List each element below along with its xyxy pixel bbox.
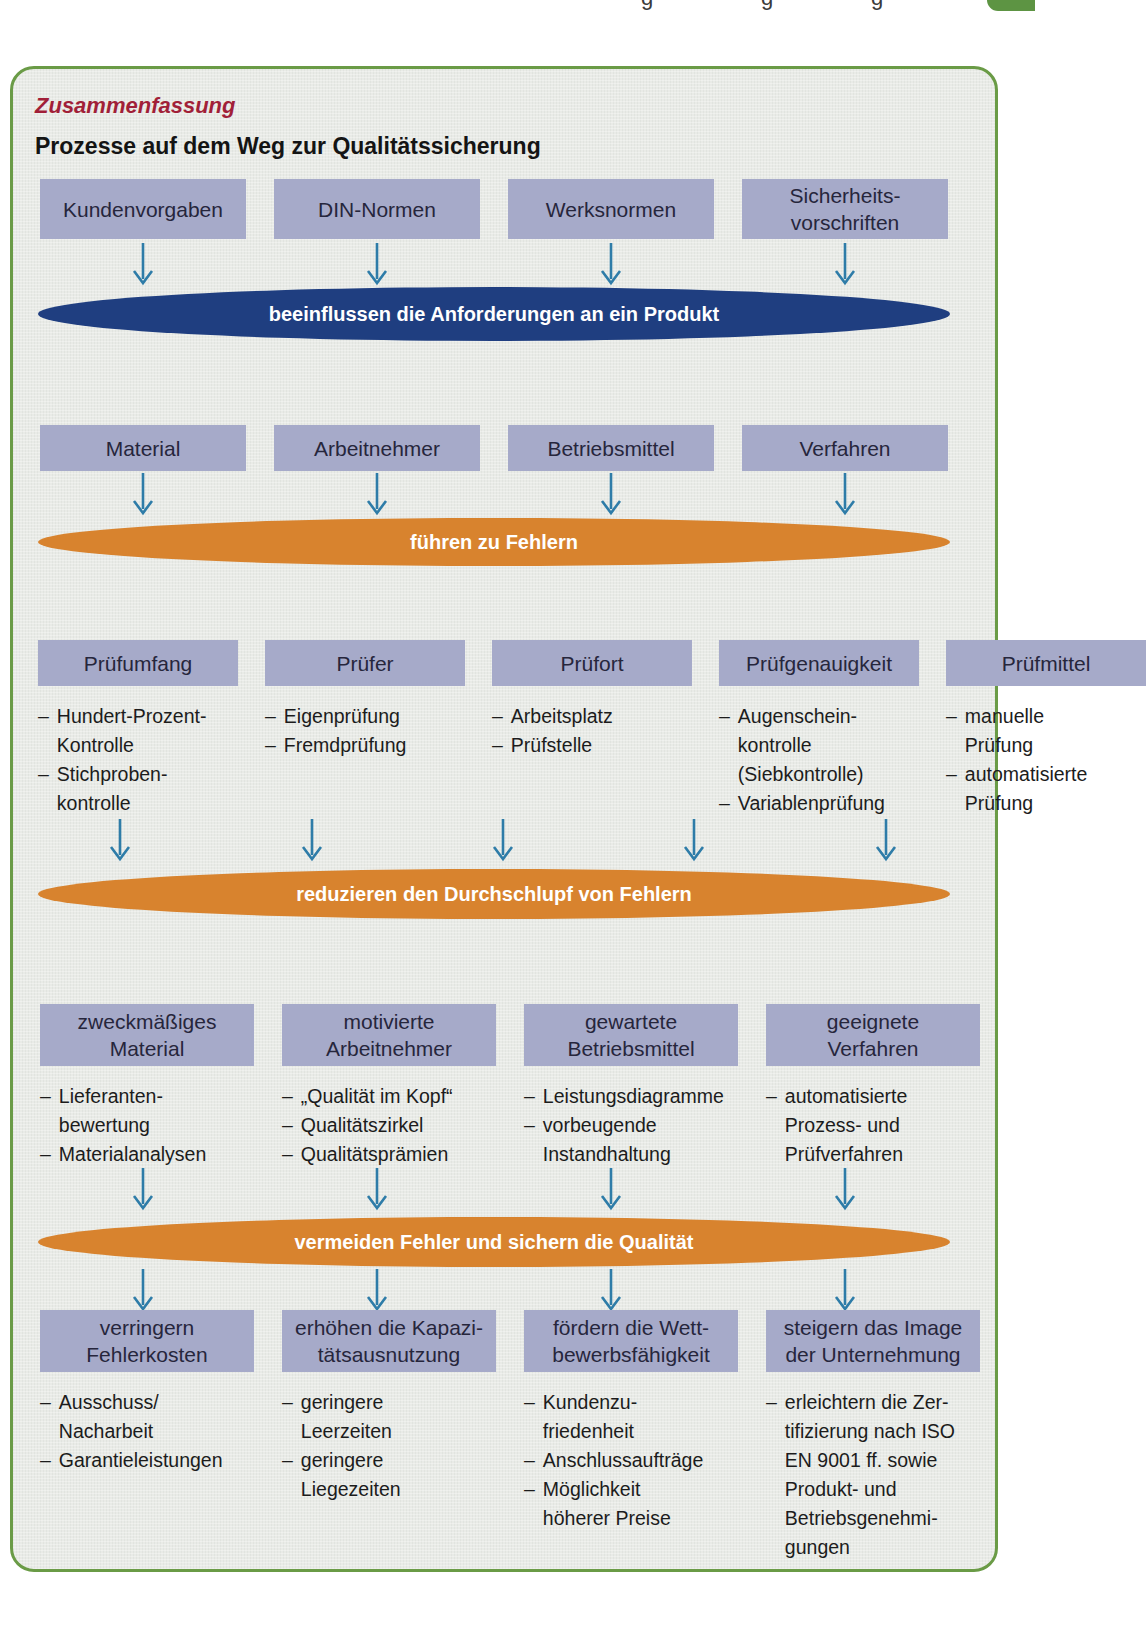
bullet-text: automatisierte Prüfung (965, 760, 1087, 818)
bullet-list: –Hundert-Prozent- Kontrolle –Stichproben… (38, 702, 238, 818)
reduce-ellipse: reduzieren den Durchschlupf von Fehlern (38, 869, 950, 919)
bullet-dash: – (524, 1388, 535, 1446)
arrow-row (40, 1165, 948, 1215)
bullet-dash: – (38, 702, 49, 760)
bullet-dash: – (766, 1388, 777, 1562)
prevent-ellipse: vermeiden Fehler und sichern die Qualitä… (38, 1217, 950, 1267)
inspection-column: Prüfer –Eigenprüfung –Fremdprüfung (265, 640, 465, 818)
bullet-item: –manuelle Prüfung (946, 702, 1146, 760)
down-arrow-icon (682, 817, 706, 865)
inspection-column: Prüfort –Arbeitsplatz –Prüfstelle (492, 640, 692, 818)
inspection-column: Prüfmittel –manuelle Prüfung –automatisi… (946, 640, 1146, 818)
down-arrow-icon (874, 817, 898, 865)
bullet-dash: – (766, 1082, 777, 1169)
bullet-item: –„Qualität im Kopf“ (282, 1082, 496, 1111)
bullet-dash: – (524, 1111, 535, 1169)
bullet-dash: – (492, 702, 503, 731)
bullet-item: –Möglichkeit höherer Preise (524, 1475, 738, 1533)
summary-label: Zusammenfassung (35, 93, 236, 119)
down-arrow-icon (491, 817, 515, 865)
down-arrow-icon (833, 1165, 857, 1215)
bullet-list: –„Qualität im Kopf“ –Qualitätszirkel –Qu… (282, 1082, 496, 1169)
down-arrow-icon (131, 243, 155, 287)
bullet-text: Garantieleistungen (59, 1446, 223, 1475)
down-arrow-icon (365, 473, 389, 517)
down-arrow-icon (599, 243, 623, 287)
bullet-dash: – (282, 1082, 293, 1111)
bullet-text: Augenschein- kontrolle (Siebkontrolle) (738, 702, 864, 789)
bullet-text: Kundenzu- friedenheit (543, 1388, 637, 1446)
down-arrow-icon (833, 473, 857, 517)
bullet-text: Hundert-Prozent- Kontrolle (57, 702, 207, 760)
fault-source-box: Verfahren (742, 425, 948, 471)
bullet-text: Leistungsdiagramme (543, 1082, 724, 1111)
prevention-header: motivierte Arbeitnehmer (282, 1004, 496, 1066)
prevention-row: zweckmäßiges Material –Lieferanten- bewe… (40, 1004, 948, 1169)
bullet-item: –Arbeitsplatz (492, 702, 692, 731)
down-arrow-icon (599, 1165, 623, 1215)
down-arrow-icon (131, 1269, 155, 1313)
down-arrow-icon (599, 1269, 623, 1313)
bullet-text: Ausschuss/ Nacharbeit (59, 1388, 159, 1446)
bullet-text: Lieferanten- bewertung (59, 1082, 163, 1140)
bullet-text: Eigenprüfung (284, 702, 400, 731)
bullet-item: –vorbeugende Instandhaltung (524, 1111, 738, 1169)
bullet-item: –Hundert-Prozent- Kontrolle (38, 702, 238, 760)
bullet-list: –geringere Leerzeiten –geringere Liegeze… (282, 1388, 496, 1504)
inspection-header: Prüfumfang (38, 640, 238, 686)
bullet-dash: – (265, 702, 276, 731)
down-arrow-icon (599, 473, 623, 517)
bullet-dash: – (282, 1446, 293, 1504)
bullet-dash: – (38, 760, 49, 818)
prevention-column: motivierte Arbeitnehmer –„Qualität im Ko… (282, 1004, 496, 1169)
bullet-dash: – (946, 702, 957, 760)
bullet-dash: – (40, 1082, 51, 1140)
down-arrow-icon (833, 243, 857, 287)
bullet-item: –automatisierte Prüfung (946, 760, 1146, 818)
influences-row: Kundenvorgaben DIN-Normen Werksnormen Si… (40, 179, 948, 239)
bullet-text: vorbeugende Instandhaltung (543, 1111, 671, 1169)
benefit-header: fördern die Wett- bewerbsfähigkeit (524, 1310, 738, 1372)
bullet-text: erleichtern die Zer- tifizierung nach IS… (785, 1388, 955, 1562)
bullet-text: Prüfstelle (511, 731, 592, 760)
bullet-dash: – (40, 1388, 51, 1446)
down-arrow-icon (833, 1269, 857, 1313)
bullet-item: –Prüfstelle (492, 731, 692, 760)
fault-source-box: Arbeitnehmer (274, 425, 480, 471)
benefit-column: steigern das Image der Unternehmung –erl… (766, 1310, 980, 1562)
bullet-dash: – (524, 1082, 535, 1111)
summary-panel: Zusammenfassung Prozesse auf dem Weg zur… (10, 66, 998, 1572)
cropped-header-strip: g g g (0, 0, 1035, 11)
bullet-list: –Ausschuss/ Nacharbeit –Garantieleistung… (40, 1388, 254, 1475)
bullet-item: –geringere Liegezeiten (282, 1446, 496, 1504)
bullet-text: „Qualität im Kopf“ (301, 1082, 453, 1111)
bullet-item: –Leistungsdiagramme (524, 1082, 738, 1111)
benefit-header: erhöhen die Kapazi- tätsausnutzung (282, 1310, 496, 1372)
bullet-list: –Kundenzu- friedenheit –Anschlussaufträg… (524, 1388, 738, 1533)
inspection-header: Prüfer (265, 640, 465, 686)
diagram-title: Prozesse auf dem Weg zur Qualitätssicher… (35, 133, 541, 160)
arrow-row (40, 473, 948, 517)
prevention-header: geeignete Verfahren (766, 1004, 980, 1066)
influences-ellipse: beeinflussen die Anforderungen an ein Pr… (38, 287, 950, 341)
bullet-text: automatisierte Prozess- und Prüfverfahre… (785, 1082, 907, 1169)
down-arrow-icon (108, 817, 132, 865)
green-tab-fragment (987, 0, 1035, 11)
bullet-item: –Lieferanten- bewertung (40, 1082, 254, 1140)
down-arrow-icon (365, 1269, 389, 1313)
bullet-item: –Anschlussaufträge (524, 1446, 738, 1475)
bullet-list: –Augenschein- kontrolle (Siebkontrolle) … (719, 702, 919, 818)
inspection-header: Prüfgenauigkeit (719, 640, 919, 686)
bullet-item: –automatisierte Prozess- und Prüfverfahr… (766, 1082, 980, 1169)
bullet-list: –automatisierte Prozess- und Prüfverfahr… (766, 1082, 980, 1169)
bullet-text: Anschlussaufträge (543, 1446, 703, 1475)
benefit-column: erhöhen die Kapazi- tätsausnutzung –geri… (282, 1310, 496, 1562)
inspection-header: Prüfmittel (946, 640, 1146, 686)
bullet-item: –Fremdprüfung (265, 731, 465, 760)
benefit-header: steigern das Image der Unternehmung (766, 1310, 980, 1372)
arrow-row (40, 243, 948, 287)
bullet-list: –Eigenprüfung –Fremdprüfung (265, 702, 465, 760)
bullet-dash: – (719, 789, 730, 818)
bullet-list: –manuelle Prüfung –automatisierte Prüfun… (946, 702, 1146, 818)
down-arrow-icon (365, 243, 389, 287)
